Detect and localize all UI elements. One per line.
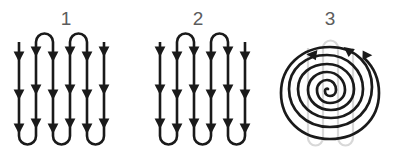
scan-strategy-figure: 1 (0, 0, 396, 160)
panel-1-artwork (0, 32, 132, 154)
serpentine-path-icon (0, 32, 132, 154)
panel-1: 1 (0, 0, 132, 160)
panel-1-label: 1 (0, 8, 132, 30)
serpentine-path-icon (132, 32, 264, 154)
panel-2: 2 (132, 0, 264, 160)
panel-2-artwork (132, 32, 264, 154)
direction-arrowheads (155, 47, 251, 135)
spiral-curve (281, 47, 379, 139)
spiral-path-icon (264, 32, 396, 154)
panel-3-artwork (264, 32, 396, 154)
panel-3-label: 3 (264, 8, 396, 30)
panel-3: 3 (264, 0, 396, 160)
direction-arrowheads (14, 47, 110, 135)
panel-2-label: 2 (132, 8, 264, 30)
